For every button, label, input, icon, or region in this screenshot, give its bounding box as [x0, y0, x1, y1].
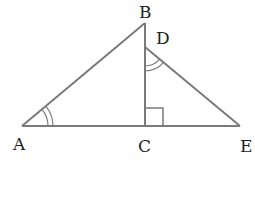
segment-de — [145, 47, 240, 126]
segment-ab — [22, 23, 145, 126]
angle-arc-a-inner — [42, 109, 48, 126]
label-c: C — [138, 136, 151, 156]
geometry-diagram: A B C D E — [0, 0, 255, 200]
right-angle-marker-c — [145, 108, 163, 126]
label-a: A — [12, 134, 26, 154]
label-e: E — [240, 136, 252, 156]
angle-arc-a-outer — [46, 106, 53, 126]
label-b: B — [139, 2, 152, 22]
angle-arc-d-inner — [145, 59, 160, 66]
label-d: D — [156, 28, 170, 48]
